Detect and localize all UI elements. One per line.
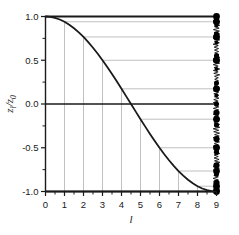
level-marker-l2	[213, 34, 220, 41]
y-tick-label: -1.0	[22, 186, 38, 197]
x-axis-title: l	[129, 213, 132, 225]
level-marker	[215, 41, 219, 45]
level-marker	[215, 67, 219, 71]
x-tick-label: 4	[119, 199, 124, 210]
level-marker	[213, 162, 219, 168]
level-marker	[214, 80, 219, 85]
level-marker	[213, 136, 219, 142]
y-tick-label: 0.5	[25, 55, 38, 66]
level-marker	[213, 110, 219, 116]
y-tick-label: 0.0	[25, 98, 38, 109]
level-marker-l7	[213, 168, 220, 175]
y-tick-label: -0.5	[22, 142, 38, 153]
level-marker-l4	[213, 85, 220, 92]
x-tick-label: 2	[81, 199, 86, 210]
x-tick-label: 1	[62, 199, 67, 210]
level-marker	[214, 101, 219, 106]
level-marker-l1	[213, 18, 220, 25]
level-marker-l5	[213, 116, 220, 123]
y-axis-title-text: zl/z0	[3, 95, 18, 114]
dense-spectrum-band	[213, 15, 220, 194]
level-marker	[215, 93, 219, 97]
y-tick-label: 1.0	[25, 11, 38, 22]
level-marker-l6	[213, 144, 220, 151]
level-marker	[214, 122, 219, 127]
x-tick-label: 5	[138, 199, 143, 210]
x-tick-label: 9	[214, 199, 219, 210]
cosine-level-chart: -1.0-0.50.00.51.00123456789lzl/z0	[0, 0, 239, 235]
x-tick-label: 6	[157, 199, 162, 210]
y-axis-title: zl/z0	[3, 95, 18, 114]
x-tick-label: 8	[195, 199, 200, 210]
x-tick-label: 3	[100, 199, 105, 210]
level-marker-l3	[213, 57, 220, 64]
x-tick-label: 0	[43, 199, 48, 210]
chart-figure: -1.0-0.50.00.51.00123456789lzl/z0	[0, 0, 239, 235]
x-tick-label: 7	[176, 199, 181, 210]
